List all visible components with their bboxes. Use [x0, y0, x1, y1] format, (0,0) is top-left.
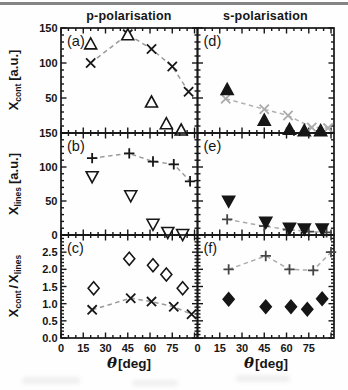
tick-label: 1.5 [42, 281, 57, 293]
scan-artifact [132, 380, 178, 386]
tick-label: 100 [39, 161, 57, 173]
panel-letter: (c) [67, 240, 84, 256]
marker-diamond-open [147, 259, 158, 272]
series-x-cross-dashed [86, 30, 193, 97]
series-dashed-line [229, 252, 331, 270]
marker-plus [87, 153, 97, 163]
marker-diamond-filled [317, 292, 328, 305]
series-plus-dashed [223, 247, 336, 276]
tick-label: 75 [166, 342, 178, 354]
scan-artifact [236, 375, 290, 382]
marker-diamond-open [161, 268, 172, 281]
marker-triangle-down-open [86, 172, 98, 183]
tick-label: 0 [58, 342, 64, 354]
tick-label: 50 [45, 92, 57, 104]
marker-x [88, 305, 97, 314]
panel-letter: (f) [204, 240, 218, 256]
marker-diamond-open [124, 252, 135, 265]
panel-letter: (e) [204, 138, 222, 154]
marker-x [86, 58, 95, 67]
tick-label: 2.0 [42, 263, 57, 275]
series-diamond-filled [223, 292, 327, 315]
panel-letter: (a) [67, 33, 85, 49]
tick-label: 150 [39, 22, 57, 34]
panel-b: 050100150(b) [39, 127, 197, 241]
marker-diamond-open [177, 282, 188, 295]
tick-label: 75 [303, 342, 315, 354]
tick-label: 2.5 [42, 246, 57, 258]
series-dashed-line [91, 34, 189, 91]
scan-artifact [22, 377, 80, 384]
marker-triangle-down-open [125, 191, 137, 202]
marker-x [168, 62, 177, 71]
marker-triangle-up-filled [221, 83, 233, 94]
marker-plus [284, 264, 294, 274]
marker-x [307, 123, 316, 132]
tick-label: 60 [280, 342, 292, 354]
panel-c: 0.00.51.01.52.02.501530456075(c) [42, 235, 197, 354]
series-dashed-line [92, 298, 191, 314]
series-x-cross-dashed-gray [221, 94, 333, 133]
series-plus-dashed [87, 148, 195, 186]
tick-label: 0.0 [42, 332, 57, 344]
panel-f: 01530456075(f) [194, 235, 336, 354]
series-dashed-line [226, 99, 328, 128]
marker-diamond-filled [302, 303, 313, 316]
marker-triangle-up-open [146, 96, 158, 107]
tick-label: 15 [77, 342, 89, 354]
series-dashed-line [92, 153, 190, 181]
figure-root: p-polarisation s-polarisation Xcont[a.u.… [0, 0, 348, 390]
marker-plus [185, 176, 195, 186]
series-triangle-down-filled [223, 196, 328, 235]
marker-plus [261, 251, 271, 261]
series-plus-dashed [222, 214, 332, 237]
marker-plus [223, 264, 233, 274]
marker-triangle-down-filled [223, 196, 235, 207]
marker-triangle-up-filled [258, 114, 270, 125]
tick-label: 60 [144, 342, 156, 354]
series-triangle-up-open [85, 29, 188, 135]
panel-frame [198, 235, 335, 338]
tick-label: 50 [45, 195, 57, 207]
tick-label: 0 [194, 342, 200, 354]
marker-x [283, 111, 292, 120]
tick-label: 15 [214, 342, 226, 354]
tick-label: 0 [51, 229, 57, 241]
marker-diamond-filled [223, 293, 234, 306]
tick-label: 100 [39, 57, 57, 69]
tick-label: 0.5 [42, 315, 57, 327]
tick-label: 30 [99, 342, 111, 354]
chart-canvas: 50100150(a)(d)050100150(b)(e)0.00.51.01.… [0, 0, 348, 390]
marker-triangle-up-open [85, 38, 97, 49]
marker-diamond-open [88, 282, 99, 295]
series-triangle-down-open [86, 172, 189, 241]
marker-plus [308, 265, 318, 275]
marker-x [221, 94, 230, 103]
series-x-cross-dashed [88, 294, 197, 319]
tick-label: 45 [122, 342, 134, 354]
panel-letter: (d) [204, 33, 222, 49]
marker-diamond-filled [260, 300, 271, 313]
panel-d: (d) [198, 28, 335, 136]
marker-plus [148, 156, 158, 166]
marker-x [147, 44, 156, 53]
panel-e: (e) [198, 133, 335, 237]
marker-x [260, 105, 269, 114]
marker-triangle-up-open [160, 118, 172, 129]
marker-x [184, 87, 193, 96]
marker-diamond-filled [285, 300, 296, 313]
marker-triangle-down-open [147, 219, 159, 230]
panel-a: 50100150(a) [39, 22, 197, 135]
tick-label: 1.0 [42, 298, 57, 310]
tick-label: 150 [39, 127, 57, 139]
panel-letter: (b) [67, 138, 85, 154]
tick-label: 30 [236, 342, 248, 354]
marker-plus [124, 148, 134, 158]
series-diamond-open [88, 252, 188, 295]
tick-label: 45 [258, 342, 270, 354]
marker-plus [222, 214, 232, 224]
